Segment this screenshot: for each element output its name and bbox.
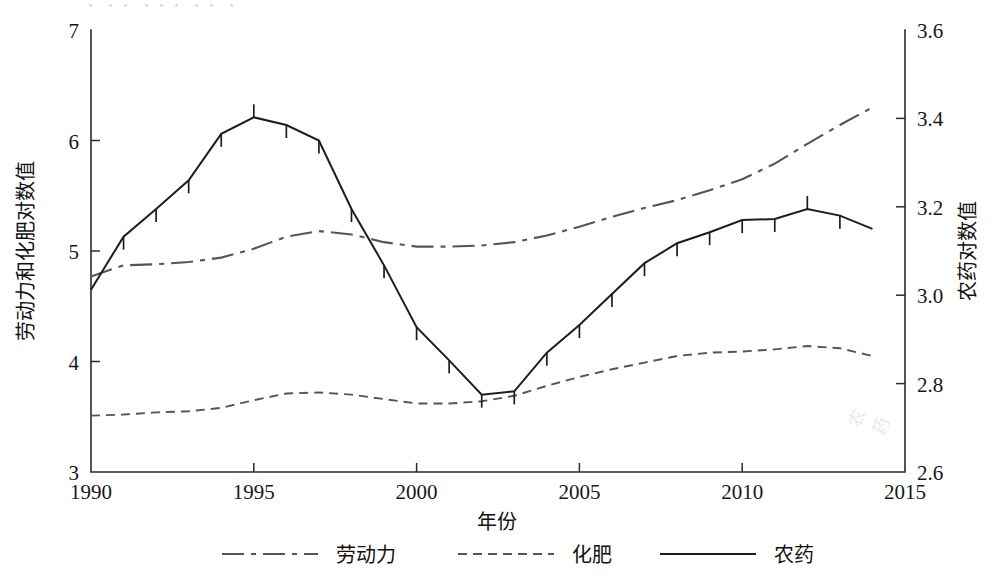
line-chart: 199019952000200520102015345672.62.83.03.… (0, 0, 999, 583)
x-tick-label: 2005 (558, 480, 600, 504)
x-axis-title: 年份 (477, 511, 517, 533)
y-tick-label-left: 7 (69, 19, 80, 43)
legend-label-化肥: 化肥 (572, 544, 612, 566)
x-tick-label: 2000 (396, 480, 438, 504)
legend-label-劳动力: 劳动力 (336, 544, 396, 566)
y-tick-label-right: 3.0 (917, 284, 943, 308)
y-tick-label-right: 3.6 (917, 19, 943, 43)
y-tick-label-left: 5 (69, 240, 80, 264)
chart-figure: ・ ・・ ・・・ ・・ ・ 19901995200020052010201534… (0, 0, 999, 583)
series-line-农药 (91, 117, 872, 394)
legend-item-农药[interactable]: 农药 (660, 544, 814, 566)
y-tick-label-right: 2.8 (917, 373, 943, 397)
y-tick-label-left: 6 (69, 130, 80, 154)
y-tick-label-left: 3 (69, 461, 80, 485)
y-axis-title-left: 劳动力和化肥对数值 (15, 161, 37, 341)
legend-item-化肥[interactable]: 化肥 (458, 544, 612, 566)
y-tick-label-left: 4 (69, 351, 80, 375)
y-tick-label-right: 3.4 (917, 107, 944, 131)
y-tick-label-right: 2.6 (917, 461, 943, 485)
x-tick-label: 1995 (233, 480, 275, 504)
axis-frame (91, 30, 905, 472)
x-tick-label: 2010 (721, 480, 763, 504)
legend-label-农药: 农药 (774, 544, 814, 566)
legend-item-劳动力[interactable]: 劳动力 (222, 544, 396, 566)
series-line-劳动力 (91, 107, 872, 276)
y-tick-label-right: 3.2 (917, 196, 943, 220)
y-axis-title-right: 农药对数值 (957, 201, 979, 301)
